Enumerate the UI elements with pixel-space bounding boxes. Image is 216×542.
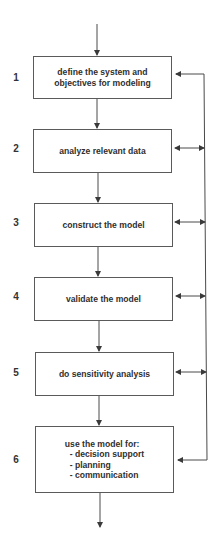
step-box-use-model: use the model for: - decision support - … [35, 426, 174, 493]
step-number-6: 6 [11, 454, 21, 465]
feedback-loop-line [176, 74, 207, 460]
step-1-line-1: define the system and [54, 67, 150, 78]
step-number-2: 2 [11, 143, 21, 154]
step-number-3: 3 [11, 217, 21, 228]
step-6-line-4: - communication [65, 470, 144, 481]
step-number-1: 1 [11, 72, 21, 83]
step-number-4: 4 [11, 291, 21, 302]
step-number-5: 5 [11, 367, 21, 378]
step-box-construct-model: construct the model [34, 203, 173, 247]
step-4-label: validate the model [66, 294, 141, 305]
step-6-line-1: use the model for: [65, 439, 144, 450]
step-box-validate-model: validate the model [34, 277, 173, 321]
step-6-line-2: - decision support [65, 449, 144, 460]
step-5-label: do sensitivity analysis [59, 369, 150, 380]
step-1-line-2: objectives for modeling [54, 78, 150, 89]
step-box-define-system: define the system and objectives for mod… [33, 56, 172, 99]
step-box-sensitivity-analysis: do sensitivity analysis [35, 352, 174, 396]
step-box-analyze-data: analyze relevant data [33, 129, 172, 173]
step-3-label: construct the model [62, 220, 144, 231]
step-6-line-3: - planning [65, 460, 144, 471]
step-2-label: analyze relevant data [59, 146, 145, 157]
